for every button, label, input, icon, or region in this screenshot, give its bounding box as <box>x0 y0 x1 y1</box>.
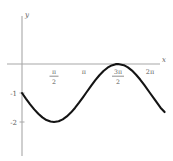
x-tick-label-2pi: 2π <box>146 68 155 76</box>
x-tick-label-pi: π <box>82 68 87 76</box>
plot-canvas: y x π 2 π 3π 2 2π -1 -2 <box>0 0 173 161</box>
x-tick-label-3pi-over-2: 3π 2 <box>112 68 124 85</box>
curve-sinusoid <box>22 64 165 122</box>
x-axis-label: x <box>162 56 166 64</box>
three-pi-over-2-numerator: 3π <box>114 68 122 75</box>
x-tick-label-pi-over-2: π 2 <box>50 68 59 85</box>
pi-over-2-denominator: 2 <box>52 78 56 85</box>
y-tick-label-minus-one: -1 <box>10 90 17 98</box>
chart-figure: y x π 2 π 3π 2 2π -1 -2 <box>0 0 173 161</box>
y-axis-label: y <box>24 11 30 19</box>
three-pi-over-2-denominator: 2 <box>116 78 120 85</box>
y-tick-label-minus-two: -2 <box>10 119 17 127</box>
pi-over-2-numerator: π <box>52 68 56 75</box>
